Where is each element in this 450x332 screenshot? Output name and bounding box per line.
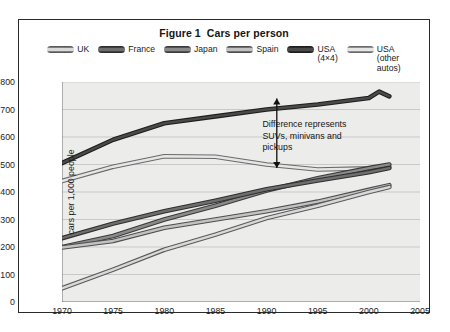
x-axis-tick-label: 1975 (93, 306, 133, 316)
x-axis-tick-label: 1985 (195, 306, 235, 316)
y-axis-tick-label: 100 (0, 270, 15, 280)
legend-swatch-icon (347, 46, 374, 53)
chart-legend: UKFranceJapanSpainUSA (4×4)USA (other au… (19, 45, 429, 73)
legend-item[interactable]: USA (other autos) (347, 45, 401, 73)
legend-swatch-icon (47, 46, 74, 53)
y-axis-tick-label: 0 (0, 297, 15, 307)
x-axis-tick-label: 2005 (400, 306, 440, 316)
plot-wrapper: Difference represents SUVs, minivans and… (62, 82, 420, 302)
legend-swatch-icon (164, 46, 191, 53)
legend-swatch-icon (226, 46, 253, 53)
legend-label: USA (other autos) (377, 45, 401, 73)
annotation-text: Difference represents SUVs, minivans and… (262, 119, 346, 153)
legend-item[interactable]: Spain (226, 45, 278, 54)
legend-item[interactable]: Japan (164, 45, 217, 54)
legend-item[interactable]: USA (4×4) (287, 45, 337, 64)
annotation-arrow (62, 82, 420, 302)
y-axis-tick-label: 400 (0, 187, 15, 197)
legend-item[interactable]: UK (47, 45, 89, 54)
arrow-head-down (273, 162, 280, 168)
arrow-head-up (273, 99, 280, 105)
figure-container: Figure 1 Cars per person UKFranceJapanSp… (18, 19, 430, 313)
y-axis-tick-label: 500 (0, 160, 15, 170)
legend-swatch-icon (98, 46, 125, 53)
x-axis-tick-label: 2000 (349, 306, 389, 316)
figure-title: Figure 1 Cars per person (19, 27, 429, 39)
legend-label: Spain (256, 45, 278, 54)
y-axis-tick-label: 800 (0, 77, 15, 87)
x-axis-tick-label: 1970 (42, 306, 82, 316)
legend-item[interactable]: France (98, 45, 155, 54)
y-axis-tick-label: 200 (0, 242, 15, 252)
y-axis-label: cars per 1,000 people (66, 149, 76, 234)
x-axis-tick-label: 1980 (144, 306, 184, 316)
y-axis-tick-label: 600 (0, 132, 15, 142)
legend-label: France (128, 45, 155, 54)
y-axis-tick-label: 300 (0, 215, 15, 225)
legend-label: UK (77, 45, 89, 54)
legend-label: USA (4×4) (317, 45, 337, 64)
legend-swatch-icon (287, 46, 314, 53)
legend-label: Japan (194, 45, 217, 54)
x-axis-tick-label: 1995 (298, 306, 338, 316)
x-axis-tick-label: 1990 (247, 306, 287, 316)
y-axis-tick-label: 700 (0, 105, 15, 115)
